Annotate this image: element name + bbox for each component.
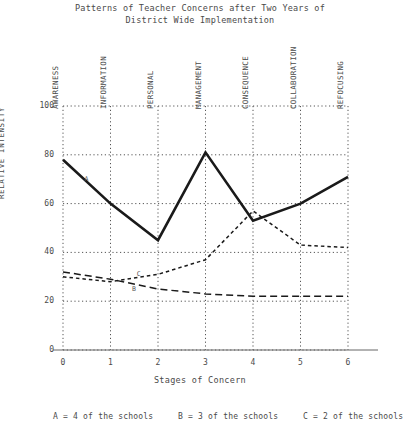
x-axis-tick-label: 1 bbox=[103, 358, 119, 367]
category-label-refocusing: REFOCUSING bbox=[336, 61, 345, 109]
legend-entry-c: C = 2 of the schools bbox=[303, 412, 403, 421]
series-inline-label-c: C bbox=[137, 270, 141, 278]
category-label-personal: PERSONAL bbox=[146, 70, 155, 109]
series-inline-label-b: B bbox=[132, 285, 136, 293]
category-label-management: MANAGEMENT bbox=[194, 61, 203, 109]
x-axis-title: Stages of Concern bbox=[0, 375, 400, 385]
series-line-a bbox=[63, 152, 348, 240]
category-label-consequence: CONSEQUENCE bbox=[241, 56, 250, 109]
x-axis-tick-label: 5 bbox=[293, 358, 309, 367]
series-line-c bbox=[63, 211, 348, 282]
category-label-information: INFORMATION bbox=[99, 56, 108, 109]
x-axis-tick-label: 3 bbox=[198, 358, 214, 367]
y-axis-tick-label: 80 bbox=[28, 150, 54, 159]
legend-entry-a: A = 4 of the schools bbox=[53, 412, 153, 421]
x-axis-tick-label: 2 bbox=[150, 358, 166, 367]
y-axis-tick-label: 60 bbox=[28, 199, 54, 208]
x-axis-tick-label: 4 bbox=[245, 358, 261, 367]
y-axis-tick-label: 20 bbox=[28, 296, 54, 305]
x-axis-tick-label: 6 bbox=[340, 358, 356, 367]
y-axis-tick-label: 0 bbox=[28, 345, 54, 354]
legend: A = 4 of the schools B = 3 of the school… bbox=[0, 412, 400, 426]
y-axis-title: RELATIVE INTENSITY bbox=[0, 107, 6, 199]
category-label-collaboration: COLLABORATION bbox=[289, 46, 298, 109]
y-axis-tick-label: 40 bbox=[28, 247, 54, 256]
chart-title: Patterns of Teacher Concerns after Two Y… bbox=[0, 2, 400, 26]
legend-entry-b: B = 3 of the schools bbox=[178, 412, 278, 421]
x-axis-tick-label: 0 bbox=[55, 358, 71, 367]
y-axis-tick-label: 100 bbox=[28, 101, 54, 110]
series-inline-label-a: A bbox=[84, 175, 88, 183]
